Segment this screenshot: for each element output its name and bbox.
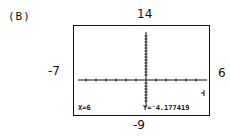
y-readout: Y=⁻4.177419 <box>143 104 189 112</box>
panel-label: (B) <box>8 10 31 23</box>
xmin-label: -7 <box>48 64 60 78</box>
xmax-label: 6 <box>218 66 226 80</box>
calculator-screen: X=6 Y=⁻4.177419 <box>73 25 210 116</box>
ymax-label: 14 <box>137 7 152 21</box>
trace-cursor-icon <box>201 90 204 96</box>
x-readout: X=6 <box>78 104 91 112</box>
ymin-label: -9 <box>133 118 145 132</box>
